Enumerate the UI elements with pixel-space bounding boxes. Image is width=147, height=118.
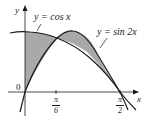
tick-label-pi-6: π 6 — [51, 96, 61, 115]
tick-den: 2 — [118, 106, 122, 115]
shaded-region-right — [57, 31, 120, 92]
y-axis-arrow-icon — [23, 5, 28, 11]
sin2x-curve-label: y = sin 2x — [97, 27, 137, 37]
cos-curve-label: y = cos x — [34, 12, 70, 22]
tick-den: 6 — [54, 106, 58, 115]
tick-label-pi-2: π 2 — [115, 96, 125, 115]
tick-num: π — [118, 95, 122, 104]
y-axis-label: y — [15, 6, 19, 15]
x-axis-label: x — [137, 95, 141, 104]
cos-label-pointer — [37, 24, 41, 31]
origin-label: 0 — [16, 83, 21, 92]
sin-label-pointer — [100, 38, 107, 48]
shaded-region-left — [25, 32, 57, 92]
tick-num: π — [54, 95, 58, 104]
